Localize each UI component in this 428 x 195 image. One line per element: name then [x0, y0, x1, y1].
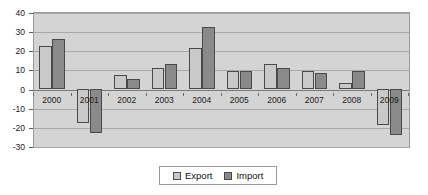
x-tick-mark	[258, 93, 259, 96]
legend-item-export[interactable]: Export	[173, 171, 212, 181]
y-tick-label: -30	[13, 143, 25, 151]
bar-export-2003	[152, 68, 165, 89]
bar-export-2008	[339, 83, 352, 89]
x-tick-label: 2009	[371, 95, 409, 105]
y-tick-label: 0	[20, 86, 25, 94]
x-tick-label: 2006	[258, 95, 296, 105]
bar-import-2004	[202, 27, 215, 88]
y-tick-label: 10	[16, 66, 25, 74]
bar-import-2002	[127, 79, 140, 89]
y-tick-label: -20	[13, 124, 25, 132]
x-tick-label: 2005	[221, 95, 259, 105]
bar-group	[33, 12, 71, 148]
bar-import-2006	[277, 68, 290, 89]
y-tick-label: 40	[16, 9, 25, 17]
bar-group	[371, 12, 409, 148]
bar-export-2006	[264, 64, 277, 89]
legend-label-import: Import	[236, 171, 263, 181]
x-tick-mark	[333, 93, 334, 96]
bar-import-2005	[240, 71, 253, 88]
bar-export-2004	[189, 48, 202, 88]
bar-group	[333, 12, 371, 148]
bar-group	[108, 12, 146, 148]
x-tick-mark	[71, 93, 72, 96]
x-tick-mark	[33, 93, 34, 96]
bar-group	[71, 12, 109, 148]
bar-group	[221, 12, 259, 148]
y-axis: 403020100-10-20-30	[0, 12, 33, 148]
bar-import-2003	[165, 64, 178, 89]
x-tick-label: 2004	[183, 95, 221, 105]
bars-layer	[33, 12, 410, 148]
y-tick-label: 30	[16, 28, 25, 36]
export-swatch-icon	[173, 172, 181, 180]
bar-group	[183, 12, 221, 148]
x-axis: 2000200120022003200420052006200720082009	[33, 93, 410, 107]
x-tick-mark	[221, 93, 222, 96]
bar-import-2000	[52, 39, 65, 89]
bar-export-2005	[227, 71, 240, 88]
x-tick-label: 2002	[108, 95, 146, 105]
x-tick-mark	[408, 93, 409, 96]
bar-chart: 403020100-10-20-30 200020012002200320042…	[0, 0, 428, 195]
x-tick-mark	[108, 93, 109, 96]
x-tick-mark	[296, 93, 297, 96]
x-tick-label: 2008	[333, 95, 371, 105]
x-tick-label: 2003	[146, 95, 184, 105]
bar-export-2002	[114, 75, 127, 88]
chart-legend: Export Import	[159, 166, 277, 185]
x-tick-label: 2007	[296, 95, 334, 105]
x-tick-label: 2001	[71, 95, 109, 105]
legend-label-export: Export	[185, 171, 212, 181]
bar-group	[258, 12, 296, 148]
y-tick-label: 20	[16, 47, 25, 55]
x-tick-mark	[371, 93, 372, 96]
bar-group	[146, 12, 184, 148]
bar-export-2007	[302, 71, 315, 88]
legend-item-import[interactable]: Import	[224, 171, 263, 181]
bar-import-2008	[352, 71, 365, 88]
y-tick-label: -10	[13, 105, 25, 113]
x-tick-mark	[183, 93, 184, 96]
bar-group	[296, 12, 334, 148]
import-swatch-icon	[224, 172, 232, 180]
bar-import-2007	[315, 73, 328, 88]
x-tick-label: 2000	[33, 95, 71, 105]
bar-export-2000	[39, 46, 52, 88]
x-tick-mark	[146, 93, 147, 96]
